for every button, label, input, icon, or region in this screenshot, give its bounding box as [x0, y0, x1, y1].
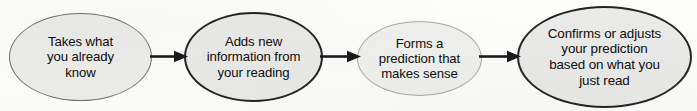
flowchart-node-new-information: Adds new information from your reading	[184, 12, 323, 102]
flow-arrow-2	[320, 50, 361, 63]
flow-arrow-3	[479, 50, 521, 63]
node-label-prior-knowledge: Takes what you already know	[43, 34, 118, 80]
flowchart-diagram: Takes what you already know Adds new inf…	[0, 0, 697, 111]
flowchart-node-prior-knowledge: Takes what you already know	[9, 13, 152, 101]
flowchart-node-confirm-adjust: Confirms or adjusts your prediction base…	[517, 6, 692, 108]
node-label-new-information: Adds new information from your reading	[203, 34, 305, 80]
node-label-confirm-adjust: Confirms or adjusts your prediction base…	[544, 26, 665, 88]
flowchart-node-prediction: Forms a prediction that makes sense	[357, 21, 482, 96]
flow-arrow-1	[150, 50, 188, 63]
node-label-prediction: Forms a prediction that makes sense	[375, 36, 464, 82]
